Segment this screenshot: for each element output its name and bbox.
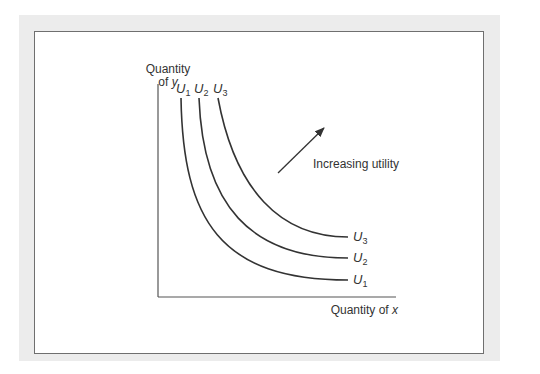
indifference-curve-chart: Quantity of y Quantity of x U1 U2 U3 U3 … — [0, 0, 540, 374]
curve-label-right-u1: U1 — [353, 272, 367, 289]
indifference-curve-u1 — [181, 98, 348, 280]
curve-label-top-u3: U3 — [213, 81, 227, 98]
curve-label-top-u1: U1 — [176, 81, 190, 98]
indifference-curve-u2 — [199, 98, 348, 258]
curve-label-right-u2: U2 — [353, 250, 367, 267]
curve-label-right-u3: U3 — [353, 229, 367, 246]
increasing-utility-label: Increasing utility — [313, 157, 399, 171]
curve-label-top-u2: U2 — [194, 81, 208, 98]
y-axis-label-line1: Quantity — [146, 62, 191, 76]
x-axis-label: Quantity of x — [331, 303, 399, 317]
